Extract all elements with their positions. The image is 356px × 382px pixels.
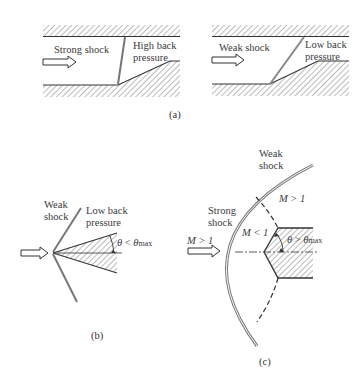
strong-shock-label: Strong shock — [54, 44, 109, 55]
flow-arrow-icon — [43, 56, 76, 68]
caption-b: (b) — [91, 330, 103, 341]
relation-symbol: < — [122, 237, 133, 248]
low-back-pressure-label-line2: pressure — [305, 51, 340, 62]
strong-shock-line — [118, 37, 125, 84]
flow-arrow-icon — [188, 245, 220, 257]
angle-condition-label: θ > θmax — [287, 234, 322, 246]
max-subscript: max — [309, 236, 323, 245]
caption-a: (a) — [169, 109, 181, 120]
top-wall-hatch — [212, 25, 349, 36]
relation-symbol: > — [292, 234, 303, 245]
shock-diagram-figure — [0, 0, 356, 382]
weak-shock-label: Weak shock — [219, 42, 270, 53]
strong-shock-label-line2: shock — [208, 217, 233, 228]
freestream-mach-label: M > 1 — [187, 235, 213, 246]
low-back-pressure-label-line1: Low back — [305, 39, 347, 50]
lower-sonic-line — [257, 278, 278, 322]
weak-shock-label-line1: Weak — [44, 199, 68, 210]
weak-shock-label-line2: shock — [44, 211, 69, 222]
high-back-pressure-label-line2: pressure — [133, 52, 168, 63]
outer-region-mach-label: M > 1 — [279, 193, 305, 204]
top-wall-hatch — [43, 25, 180, 36]
flow-arrow-icon — [212, 54, 244, 66]
strong-shock-label-line1: Strong — [208, 205, 236, 216]
subsonic-region-mach-label: M < 1 — [242, 227, 268, 238]
low-back-pressure-label-line2: pressure — [86, 217, 121, 228]
weak-shock-label-line1: Weak — [259, 148, 283, 159]
flow-arrow-icon — [21, 247, 48, 259]
lower-weak-shock — [53, 254, 77, 302]
weak-shock-label-line2: shock — [259, 160, 284, 171]
caption-c: (c) — [259, 356, 271, 367]
high-back-pressure-label-line1: High back — [133, 40, 176, 51]
max-subscript: max — [139, 239, 153, 248]
angle-condition-label: θ < θmax — [117, 237, 152, 249]
low-back-pressure-label-line1: Low back — [86, 205, 128, 216]
